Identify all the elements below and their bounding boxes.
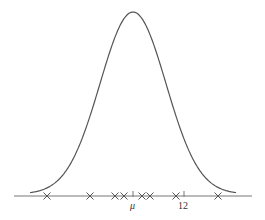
mu-label: μ [129,200,135,211]
twelve-label: 12 [178,200,188,211]
gaussian-curve [30,12,236,193]
normal-distribution-chart: μ 12 [0,0,265,220]
